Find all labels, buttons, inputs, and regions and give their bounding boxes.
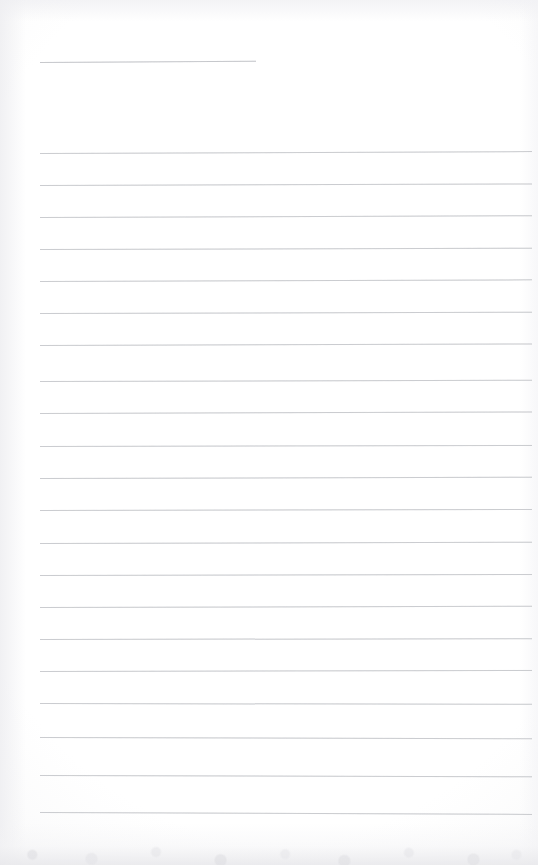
rule-line <box>40 248 532 250</box>
rule-line <box>40 151 532 154</box>
rule-line <box>40 542 532 544</box>
rule-line <box>40 279 532 282</box>
rule-line <box>40 412 532 414</box>
rule-line <box>40 509 532 511</box>
rule-line <box>40 445 532 447</box>
rule-line <box>40 477 532 479</box>
rule-line <box>40 737 532 739</box>
ruled-lines-layer <box>0 0 538 865</box>
scanned-page <box>0 0 538 865</box>
rule-line <box>40 312 532 314</box>
rule-line <box>40 606 532 608</box>
rule-line <box>40 574 532 576</box>
rule-line <box>40 812 532 815</box>
rule-line <box>40 343 532 346</box>
rule-line <box>40 703 532 705</box>
rule-line <box>40 183 532 186</box>
rule-line <box>40 638 532 640</box>
rule-line-short <box>40 61 256 63</box>
rule-line <box>40 670 532 672</box>
rule-line <box>40 380 532 382</box>
rule-line <box>40 215 532 218</box>
rule-line <box>40 775 532 777</box>
